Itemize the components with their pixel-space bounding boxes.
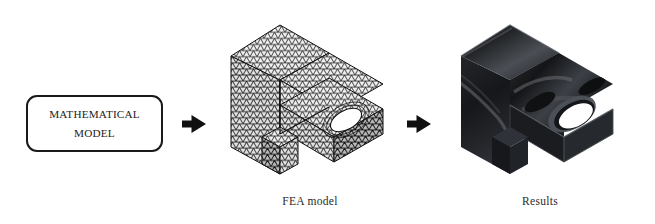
fea-model-caption: FEA model [235, 195, 385, 207]
fea-workflow-figure: MATHEMATICAL MODEL [0, 0, 655, 224]
fea-model-graphic [222, 14, 397, 189]
arrow-right-icon [406, 112, 432, 136]
mathematical-model-line-1: MATHEMATICAL [49, 105, 140, 123]
results-graphic [452, 14, 627, 189]
mathematical-model-line-2: MODEL [74, 124, 115, 142]
arrow-right-icon [181, 112, 207, 136]
results-caption: Results [465, 195, 615, 207]
mathematical-model-label: MATHEMATICAL MODEL [26, 95, 163, 152]
